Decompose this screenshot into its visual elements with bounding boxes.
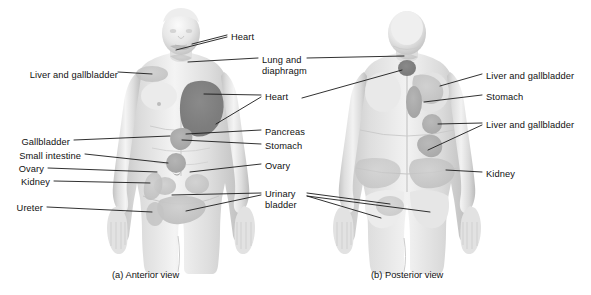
anterior-left-eye (170, 29, 176, 33)
label-ovary-anterior-right: Ovary (265, 161, 290, 172)
label-urinary-bladder-line1: Urinary (265, 189, 296, 200)
label-ovary-anterior-left: Ovary (0, 164, 44, 175)
label-heart-anterior-chest: Heart (265, 92, 288, 103)
label-lung-and-diaphragm-line1: Lung and (262, 55, 302, 66)
leader-ureter (47, 207, 152, 212)
anterior-leg-separation (178, 236, 180, 272)
caption-posterior-view: (b) Posterior view (371, 270, 443, 280)
label-liver-and-gallbladder-posterior-upper: Liver and gallbladder (486, 71, 574, 82)
pain-region-urinary-bladder-posterior (376, 196, 404, 216)
pain-region-stomach-posterior (406, 86, 422, 118)
pain-region-gallbladder-small-intestine (166, 153, 186, 173)
posterior-leg-separation (404, 238, 406, 272)
label-urinary-bladder-line2: bladder (265, 200, 297, 211)
label-liver-and-gallbladder-posterior-lower: Liver and gallbladder (486, 120, 574, 131)
posterior-body-illustration (302, 11, 482, 274)
anterior-right-eye (186, 29, 192, 33)
posterior-left-scapula (365, 72, 401, 112)
label-stomach-anterior: Stomach (265, 141, 302, 152)
anterior-body-illustration (47, 8, 261, 274)
label-heart-anterior-upper: Heart (231, 32, 254, 43)
label-gallbladder-anterior: Gallbladder (0, 137, 70, 148)
posterior-scalp (391, 11, 423, 45)
label-stomach-posterior: Stomach (486, 92, 523, 103)
label-lung-and-diaphragm-line2: diaphragm (262, 66, 307, 77)
pain-region-ureter-groin (146, 202, 164, 226)
pain-region-ovary-right (185, 174, 209, 194)
pain-region-heart-posterior (398, 60, 416, 76)
label-liver-and-gallbladder-anterior: Liver and gallbladder (0, 70, 118, 81)
label-small-intestine-anterior: Small intestine (0, 151, 81, 162)
caption-anterior-view: (a) Anterior view (112, 270, 179, 280)
referred-pain-figure: Liver and gallbladder Gallbladder Small … (0, 0, 591, 295)
label-kidney-posterior: Kidney (486, 169, 515, 180)
label-kidney-anterior: Kidney (0, 177, 50, 188)
anterior-left-nipple (157, 102, 161, 106)
anterior-finger-lines (111, 222, 251, 249)
label-pancreas-anterior: Pancreas (265, 127, 305, 138)
posterior-finger-lines (337, 222, 477, 249)
label-ureter-anterior: Ureter (0, 203, 43, 214)
